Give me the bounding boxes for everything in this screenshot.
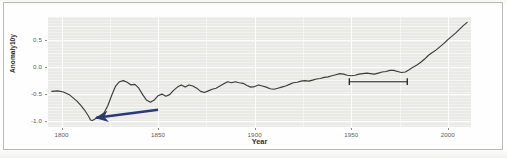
y-tick-mark — [45, 67, 47, 68]
y-tick-label: -0.5 — [20, 90, 42, 97]
x-axis-title: Year — [48, 137, 471, 146]
x-tick-mark — [62, 128, 63, 130]
figure-container: 0.50.0-0.5-1.018001850190019502000 Anoma… — [0, 0, 507, 158]
y-tick-mark — [45, 121, 47, 122]
y-tick-mark — [45, 94, 47, 95]
x-tick-mark — [448, 128, 449, 130]
x-tick-mark — [158, 128, 159, 130]
plot-panel — [48, 17, 471, 127]
y-tick-label: -1.0 — [20, 117, 42, 124]
y-tick-label: 0.5 — [20, 36, 42, 43]
y-axis-title: Anomaly10y — [9, 24, 16, 84]
y-tick-mark — [45, 40, 47, 41]
y-tick-label: 0.0 — [20, 63, 42, 70]
x-tick-mark — [255, 128, 256, 130]
data-series-layer — [48, 17, 471, 127]
line-series-anomaly — [52, 22, 467, 120]
x-tick-mark — [351, 128, 352, 130]
